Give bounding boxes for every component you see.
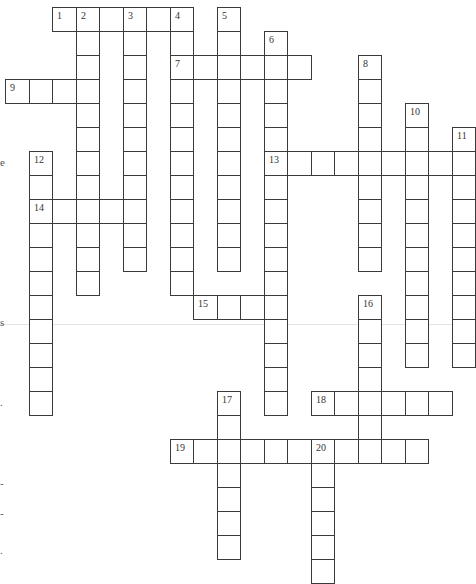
grid-cell[interactable] xyxy=(217,199,241,224)
grid-cell[interactable]: 17 xyxy=(217,391,241,416)
grid-cell[interactable] xyxy=(428,151,453,176)
grid-cell[interactable] xyxy=(170,223,194,248)
grid-cell[interactable] xyxy=(123,103,147,128)
grid-cell[interactable]: 4 xyxy=(170,7,194,32)
grid-cell[interactable] xyxy=(334,391,359,416)
grid-cell[interactable]: 20 xyxy=(311,439,335,464)
grid-cell[interactable] xyxy=(52,79,77,104)
grid-cell[interactable] xyxy=(381,391,406,416)
grid-cell[interactable] xyxy=(358,367,382,392)
grid-cell[interactable] xyxy=(358,151,382,176)
grid-cell[interactable] xyxy=(123,199,147,224)
grid-cell[interactable] xyxy=(405,319,429,344)
grid-cell[interactable] xyxy=(334,439,359,464)
grid-cell[interactable] xyxy=(452,295,476,320)
grid-cell[interactable] xyxy=(193,55,218,80)
grid-cell[interactable] xyxy=(146,7,171,32)
grid-cell[interactable] xyxy=(123,223,147,248)
grid-cell[interactable] xyxy=(217,415,241,440)
grid-cell[interactable] xyxy=(29,319,53,344)
grid-cell[interactable] xyxy=(405,127,429,152)
grid-cell[interactable] xyxy=(76,199,100,224)
grid-cell[interactable] xyxy=(405,175,429,200)
grid-cell[interactable] xyxy=(170,103,194,128)
grid-cell[interactable] xyxy=(452,175,476,200)
grid-cell[interactable] xyxy=(358,103,382,128)
grid-cell[interactable] xyxy=(29,175,53,200)
grid-cell[interactable] xyxy=(76,55,100,80)
grid-cell[interactable]: 10 xyxy=(405,103,429,128)
grid-cell[interactable] xyxy=(217,487,241,512)
grid-cell[interactable] xyxy=(358,127,382,152)
grid-cell[interactable] xyxy=(264,127,288,152)
grid-cell[interactable]: 9 xyxy=(5,79,30,104)
grid-cell[interactable] xyxy=(287,55,312,80)
grid-cell[interactable] xyxy=(123,127,147,152)
grid-cell[interactable] xyxy=(240,439,265,464)
grid-cell[interactable] xyxy=(381,151,406,176)
grid-cell[interactable] xyxy=(123,175,147,200)
grid-cell[interactable]: 6 xyxy=(264,31,288,56)
grid-cell[interactable] xyxy=(217,175,241,200)
grid-cell[interactable] xyxy=(358,319,382,344)
grid-cell[interactable] xyxy=(264,319,288,344)
grid-cell[interactable] xyxy=(170,127,194,152)
grid-cell[interactable] xyxy=(405,391,429,416)
grid-cell[interactable] xyxy=(217,127,241,152)
grid-cell[interactable] xyxy=(405,247,429,272)
grid-cell[interactable] xyxy=(452,271,476,296)
grid-cell[interactable] xyxy=(240,295,265,320)
grid-cell[interactable] xyxy=(452,343,476,368)
grid-cell[interactable] xyxy=(358,439,382,464)
grid-cell[interactable] xyxy=(76,79,100,104)
grid-cell[interactable] xyxy=(76,127,100,152)
grid-cell[interactable] xyxy=(29,343,53,368)
grid-cell[interactable]: 15 xyxy=(193,295,218,320)
grid-cell[interactable]: 14 xyxy=(29,199,53,224)
grid-cell[interactable] xyxy=(358,247,382,272)
grid-cell[interactable] xyxy=(264,295,288,320)
grid-cell[interactable] xyxy=(405,199,429,224)
grid-cell[interactable] xyxy=(381,439,406,464)
grid-cell[interactable] xyxy=(358,391,382,416)
grid-cell[interactable] xyxy=(76,247,100,272)
grid-cell[interactable] xyxy=(287,151,312,176)
grid-cell[interactable] xyxy=(217,247,241,272)
grid-cell[interactable] xyxy=(264,439,288,464)
grid-cell[interactable] xyxy=(428,391,453,416)
grid-cell[interactable] xyxy=(264,343,288,368)
grid-cell[interactable] xyxy=(264,271,288,296)
grid-cell[interactable] xyxy=(123,151,147,176)
grid-cell[interactable] xyxy=(217,439,241,464)
grid-cell[interactable] xyxy=(217,511,241,536)
grid-cell[interactable] xyxy=(217,31,241,56)
grid-cell[interactable] xyxy=(405,343,429,368)
grid-cell[interactable]: 5 xyxy=(217,7,241,32)
grid-cell[interactable] xyxy=(217,295,241,320)
grid-cell[interactable] xyxy=(193,439,218,464)
grid-cell[interactable] xyxy=(358,79,382,104)
grid-cell[interactable] xyxy=(311,559,335,584)
grid-cell[interactable] xyxy=(29,271,53,296)
grid-cell[interactable] xyxy=(123,31,147,56)
grid-cell[interactable] xyxy=(405,295,429,320)
grid-cell[interactable] xyxy=(76,271,100,296)
grid-cell[interactable] xyxy=(217,55,241,80)
grid-cell[interactable] xyxy=(123,55,147,80)
grid-cell[interactable] xyxy=(452,199,476,224)
grid-cell[interactable] xyxy=(76,175,100,200)
grid-cell[interactable]: 8 xyxy=(358,55,382,80)
grid-cell[interactable] xyxy=(264,55,288,80)
grid-cell[interactable]: 12 xyxy=(29,151,53,176)
grid-cell[interactable] xyxy=(76,223,100,248)
grid-cell[interactable] xyxy=(452,223,476,248)
grid-cell[interactable] xyxy=(452,247,476,272)
grid-cell[interactable]: 2 xyxy=(76,7,100,32)
grid-cell[interactable] xyxy=(311,487,335,512)
grid-cell[interactable]: 16 xyxy=(358,295,382,320)
grid-cell[interactable] xyxy=(264,223,288,248)
grid-cell[interactable] xyxy=(264,247,288,272)
grid-cell[interactable] xyxy=(264,391,288,416)
grid-cell[interactable] xyxy=(217,223,241,248)
grid-cell[interactable] xyxy=(240,55,265,80)
